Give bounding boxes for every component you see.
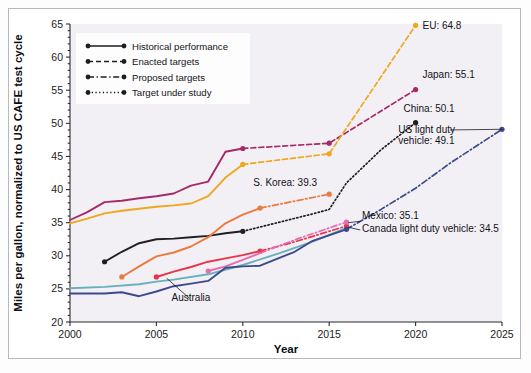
- data-point-marker: [240, 229, 245, 234]
- data-point-marker: [413, 23, 418, 28]
- legend-marker-end: [122, 75, 127, 80]
- y-tick-label: 25: [51, 282, 63, 294]
- data-point-marker: [327, 141, 332, 146]
- data-point-marker: [413, 87, 418, 92]
- series-label-canada-light-duty-vehicle: Canada light duty vehicle: 34.5: [362, 223, 499, 234]
- legend-marker-start: [86, 75, 91, 80]
- series-label-australia: Australia: [172, 292, 211, 303]
- y-tick-label: 65: [51, 18, 63, 30]
- legend-marker-end: [122, 44, 127, 49]
- data-point-marker: [240, 146, 245, 151]
- series-label-us-light-duty-vehicle: US light dutyvehicle: 49.1: [398, 124, 455, 146]
- data-point-marker: [240, 162, 245, 167]
- legend-marker-start: [86, 44, 91, 49]
- y-tick-label: 55: [51, 84, 63, 96]
- series-label-eu: EU: 64.8: [423, 20, 462, 31]
- legend-label: Target under study: [132, 87, 212, 98]
- legend-marker-end: [122, 90, 127, 95]
- legend-marker-end: [122, 59, 127, 64]
- legend-label: Historical performance: [132, 41, 228, 52]
- y-tick-label: 50: [51, 117, 63, 129]
- series-label-mexico: Mexico: 35.1: [362, 210, 419, 221]
- x-tick-label: 2000: [58, 328, 82, 340]
- legend-label: Proposed targets: [132, 72, 205, 83]
- x-axis-title: Year: [274, 343, 299, 355]
- series-label-s-korea: S. Korea: 39.3: [253, 177, 317, 188]
- data-point-marker: [119, 274, 124, 279]
- data-point-marker: [257, 205, 262, 210]
- x-tick-label: 2025: [490, 328, 514, 340]
- series-label-japan: Japan: 55.1: [423, 69, 476, 80]
- y-tick-label: 20: [51, 316, 63, 328]
- legend-marker-start: [86, 90, 91, 95]
- fuel-economy-line-chart: 2025303540455055606520002005201020152020…: [0, 0, 531, 373]
- y-axis-title: Miles per gallon, normalized to US CAFE …: [12, 34, 24, 311]
- y-tick-label: 35: [51, 216, 63, 228]
- y-tick-label: 45: [51, 150, 63, 162]
- data-point-marker: [154, 274, 159, 279]
- data-point-marker: [102, 259, 107, 264]
- x-tick-label: 2010: [231, 328, 255, 340]
- legend-marker-start: [86, 59, 91, 64]
- y-tick-label: 60: [51, 51, 63, 63]
- x-tick-label: 2020: [404, 328, 428, 340]
- y-tick-label: 30: [51, 249, 63, 261]
- figure-container: 2025303540455055606520002005201020152020…: [0, 0, 531, 373]
- data-point-marker: [344, 219, 349, 224]
- data-point-marker: [327, 192, 332, 197]
- y-tick-label: 40: [51, 183, 63, 195]
- x-tick-label: 2015: [318, 328, 342, 340]
- legend-label: Enacted targets: [132, 56, 199, 67]
- data-point-marker: [327, 151, 332, 156]
- series-label-china: China: 50.1: [404, 103, 456, 114]
- x-tick-label: 2005: [145, 328, 169, 340]
